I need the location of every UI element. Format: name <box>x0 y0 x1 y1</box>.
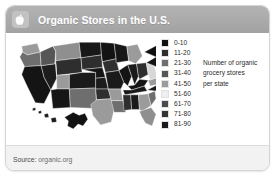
legend-item: 71-80 <box>161 109 191 119</box>
apple-icon <box>12 11 29 28</box>
card-header: Organic Stores in the U.S. <box>6 6 270 33</box>
state-montana <box>53 42 81 60</box>
legend-label: 41-50 <box>174 81 191 88</box>
state-oregon <box>20 52 41 67</box>
legend-label: 71-80 <box>174 111 191 118</box>
state-wisconsin <box>114 43 129 62</box>
legend-label: 11-20 <box>174 50 190 57</box>
legend-items: 0-10 11-20 21-30 31-40 41-50 <box>161 38 191 130</box>
legend-item: 51-60 <box>161 89 191 99</box>
legend-item: 41-50 <box>161 79 191 89</box>
state-hawaii-1 <box>32 107 35 110</box>
legend-label: 81-90 <box>174 121 191 128</box>
legend-swatch <box>161 100 169 108</box>
legend-swatch <box>161 59 169 67</box>
state-michigan <box>127 44 143 63</box>
legend-caption-line: grocery stores <box>203 68 269 78</box>
legend-label: 0-10 <box>174 40 187 47</box>
legend-label: 61-70 <box>174 101 191 108</box>
state-wyoming <box>56 58 82 76</box>
source-note: Source: organic.org <box>13 156 72 163</box>
legend-swatch <box>161 39 169 47</box>
state-texas <box>91 99 114 125</box>
state-new-york <box>144 45 156 58</box>
state-arizona <box>51 89 70 108</box>
us-choropleth-map <box>6 33 158 145</box>
legend-item: 0-10 <box>161 38 191 48</box>
legend-swatch <box>161 121 169 129</box>
legend-caption-line: per state <box>203 79 269 89</box>
legend-swatch <box>161 110 169 118</box>
legend-label: 21-30 <box>174 60 191 67</box>
state-hawaii-3 <box>44 113 49 117</box>
source-label: Source: <box>13 156 36 163</box>
legend-swatch <box>161 90 169 98</box>
source-link[interactable]: organic.org <box>38 156 72 163</box>
legend-item: 81-90 <box>161 120 191 130</box>
state-hawaii-4 <box>51 117 57 122</box>
state-hawaii-2 <box>38 110 41 113</box>
state-alabama <box>131 95 140 110</box>
legend-swatch <box>161 80 169 88</box>
legend-item: 61-70 <box>161 99 191 109</box>
legend-caption-line: Number of organic <box>203 58 269 68</box>
legend-label: 31-40 <box>174 70 191 77</box>
legend-item: 11-20 <box>161 48 191 58</box>
legend-item: 21-30 <box>161 58 191 68</box>
state-colorado <box>69 72 95 89</box>
state-alaska <box>65 112 88 129</box>
legend-caption: Number of organic grocery stores per sta… <box>203 58 269 89</box>
legend-label: 51-60 <box>174 91 191 98</box>
card-body: 0-10 11-20 21-30 31-40 41-50 <box>6 33 270 145</box>
page-title: Organic Stores in the U.S. <box>38 14 170 26</box>
legend-item: 31-40 <box>161 69 191 79</box>
state-idaho <box>40 46 56 65</box>
infographic-card: Organic Stores in the U.S. <box>5 5 270 171</box>
state-mississippi <box>123 95 132 111</box>
legend-swatch <box>161 70 169 78</box>
map-legend: 0-10 11-20 21-30 31-40 41-50 <box>158 33 270 145</box>
card-footer: Source: organic.org <box>6 145 270 171</box>
state-minnesota <box>101 42 117 61</box>
legend-swatch <box>161 49 169 57</box>
